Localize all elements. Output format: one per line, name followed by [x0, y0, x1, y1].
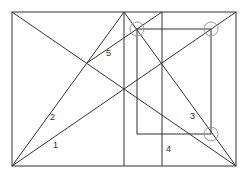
- label-4: 4: [166, 144, 171, 154]
- label-1: 1: [53, 140, 58, 150]
- diagram-labels: 12345: [50, 48, 195, 154]
- label-2: 2: [50, 112, 55, 122]
- label-5: 5: [106, 48, 111, 58]
- line-2: [12, 12, 124, 166]
- label-3: 3: [190, 111, 195, 121]
- geometric-diagram: 12345: [0, 0, 250, 176]
- diagram-shapes: [12, 12, 236, 166]
